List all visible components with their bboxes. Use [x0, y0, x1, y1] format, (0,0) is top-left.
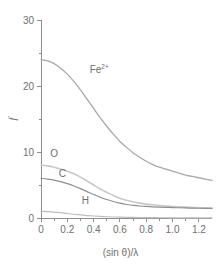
curve-fe2: [41, 60, 212, 181]
curve-label-h: H: [82, 195, 89, 206]
y-tick-label: 0: [28, 213, 34, 224]
y-tick-label: 30: [23, 15, 35, 26]
curves-group: [41, 60, 212, 218]
curve-labels-group: Fe2+OCH: [50, 63, 109, 206]
x-tick-label: 0.6: [113, 224, 127, 235]
y-tick-label: 20: [23, 81, 35, 92]
axes-group: 010203000.20.40.60.81.01.2: [23, 15, 212, 235]
y-axis-title: f: [6, 116, 18, 121]
curve-o: [41, 165, 212, 208]
curve-c: [41, 178, 212, 208]
x-tick-label: 0.4: [87, 224, 101, 235]
x-tick-label: 1.2: [192, 224, 206, 235]
scattering-factor-chart: 010203000.20.40.60.81.01.2 Fe2+OCH (sin …: [0, 0, 222, 266]
x-tick-label: 0.8: [139, 224, 153, 235]
axis-titles-group: (sin θ)/λf: [6, 116, 138, 258]
curve-label-fe2: Fe2+: [90, 63, 109, 74]
curve-h: [41, 211, 212, 217]
x-axis-title: (sin θ)/λ: [103, 247, 139, 258]
y-tick-label: 10: [23, 147, 35, 158]
x-tick-label: 0: [38, 224, 44, 235]
x-tick-label: 0.2: [60, 224, 74, 235]
plot-svg: 010203000.20.40.60.81.01.2 Fe2+OCH (sin …: [0, 0, 222, 266]
x-tick-label: 1.0: [166, 224, 180, 235]
curve-label-superscript: 2+: [101, 63, 109, 70]
curve-label-c: C: [59, 168, 66, 179]
curve-label-o: O: [50, 148, 58, 159]
